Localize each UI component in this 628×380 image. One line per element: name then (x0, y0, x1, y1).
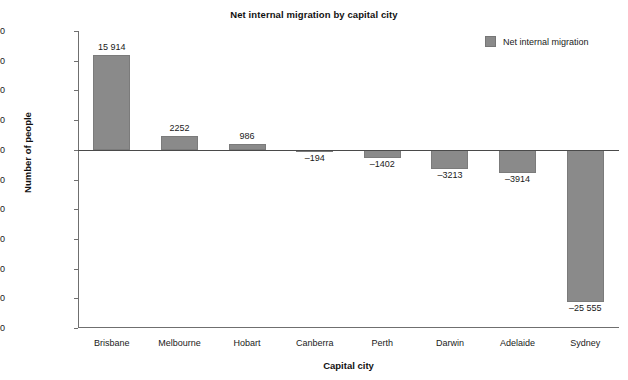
y-axis-tick (74, 269, 78, 270)
bar-value-label: 986 (240, 131, 255, 141)
x-axis-category-label: Perth (372, 338, 394, 348)
y-axis-tick-label: –20 000 (0, 264, 5, 274)
y-axis-tick (74, 120, 78, 121)
chart-title: Net internal migration by capital city (0, 9, 628, 20)
x-axis-category-label: Canberra (296, 338, 334, 348)
y-axis-tick (74, 298, 78, 299)
x-axis-category-label: Melbourne (158, 338, 201, 348)
y-axis-tick-label: –25 000 (0, 293, 5, 303)
bar-value-label: 15 914 (98, 42, 126, 52)
y-axis-tick-label: –30 000 (0, 323, 5, 333)
bar-value-label: –3213 (437, 170, 462, 180)
x-axis-category-label: Brisbane (94, 338, 130, 348)
x-axis-category-label: Hobart (234, 338, 261, 348)
y-axis-tick-label: 5000 (0, 115, 5, 125)
y-axis-title: Number of people (22, 78, 33, 228)
x-axis-category-label: Darwin (436, 338, 464, 348)
y-axis-tick-label: 0 (0, 145, 5, 155)
bar-value-label: –25 555 (569, 303, 602, 313)
y-axis-tick (74, 61, 78, 62)
y-axis-tick (74, 90, 78, 91)
y-axis-tick (74, 328, 78, 329)
bar[interactable] (431, 150, 468, 169)
bar-value-label: –194 (305, 153, 325, 163)
plot-area (78, 31, 619, 328)
y-axis-tick (74, 209, 78, 210)
bar-value-label: –1402 (370, 159, 395, 169)
y-axis-tick-label: –5000 (0, 175, 5, 185)
bar-value-label: 2252 (169, 123, 189, 133)
y-axis-tick-label: 20 000 (0, 26, 5, 36)
bar-value-label: –3914 (505, 174, 530, 184)
y-axis-tick-label: –10 000 (0, 204, 5, 214)
bar[interactable] (567, 150, 604, 302)
y-axis-tick-label: –15 000 (0, 234, 5, 244)
x-axis-category-label: Adelaide (500, 338, 535, 348)
bar-chart: Net internal migration by capital city N… (0, 0, 628, 380)
bar[interactable] (161, 136, 198, 149)
y-axis-tick-label: 10 000 (0, 85, 5, 95)
y-axis-tick (74, 31, 78, 32)
bar[interactable] (499, 150, 536, 173)
x-axis-line (78, 327, 619, 328)
y-axis-tick-label: 15 000 (0, 56, 5, 66)
y-axis-tick (74, 180, 78, 181)
x-axis-category-label: Sydney (570, 338, 600, 348)
x-axis-title: Capital city (78, 360, 619, 371)
bar[interactable] (93, 55, 130, 150)
y-axis-line (78, 31, 79, 328)
y-axis-tick (74, 239, 78, 240)
zero-baseline (78, 150, 619, 151)
